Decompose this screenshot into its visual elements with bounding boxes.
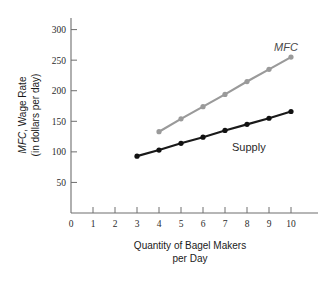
- x-tick-label: 1: [91, 219, 96, 229]
- data-point-supply: [266, 116, 271, 121]
- y-tick-label: 100: [52, 147, 67, 157]
- x-tick-label: 10: [286, 219, 296, 229]
- x-tick-label: 7: [223, 219, 228, 229]
- data-point-supply: [134, 154, 139, 159]
- y-tick-label: 150: [52, 117, 67, 127]
- data-point-supply: [178, 141, 183, 146]
- data-point-supply: [288, 109, 293, 114]
- y-tick-label: 50: [57, 178, 67, 188]
- x-axis-title-line2: per Day: [172, 253, 207, 264]
- x-axis-ticks: 012345678910: [69, 207, 296, 229]
- x-tick-label: 0: [69, 219, 74, 229]
- x-tick-label: 3: [135, 219, 140, 229]
- data-point-mfc: [156, 129, 161, 134]
- y-axis-ticks: 50100150200250300: [52, 25, 77, 188]
- data-point-supply: [156, 147, 161, 152]
- series-label-mfc: MFC: [274, 41, 298, 53]
- x-tick-label: 4: [157, 219, 162, 229]
- x-tick-label: 6: [201, 219, 206, 229]
- data-point-supply: [200, 135, 205, 140]
- y-tick-label: 250: [52, 56, 67, 66]
- series-label-supply: Supply: [232, 141, 266, 153]
- data-point-mfc: [244, 79, 249, 84]
- data-point-mfc: [178, 116, 183, 121]
- data-point-mfc: [222, 92, 227, 97]
- chart-figure: 50100150200250300 012345678910 MFC Suppl…: [0, 0, 324, 282]
- chart-plot-area: 50100150200250300 012345678910 MFC Suppl…: [0, 0, 324, 282]
- data-point-mfc: [266, 67, 271, 72]
- x-tick-label: 5: [179, 219, 184, 229]
- x-tick-label: 9: [267, 219, 272, 229]
- y-axis-title-rest-part: , Wage Rate: [17, 76, 28, 132]
- data-point-supply: [222, 128, 227, 133]
- series-mfc: [156, 55, 293, 135]
- y-tick-label: 300: [52, 25, 67, 35]
- y-axis-title: MFC, Wage Rate (in dollars per day): [17, 74, 41, 157]
- y-tick-label: 200: [52, 86, 67, 96]
- data-point-supply: [244, 122, 249, 127]
- data-point-mfc: [200, 104, 205, 109]
- x-tick-label: 2: [113, 219, 118, 229]
- svg-text:MFC, Wage Rate: MFC, Wage Rate: [17, 76, 28, 153]
- x-axis-title-line1: Quantity of Bagel Makers: [134, 240, 246, 251]
- y-axis-title-italic-part: MFC: [17, 131, 28, 153]
- x-tick-label: 8: [245, 219, 250, 229]
- x-axis-title: Quantity of Bagel Makers per Day: [134, 240, 246, 264]
- data-point-mfc: [288, 55, 293, 60]
- y-axis-title-line2: (in dollars per day): [30, 74, 41, 157]
